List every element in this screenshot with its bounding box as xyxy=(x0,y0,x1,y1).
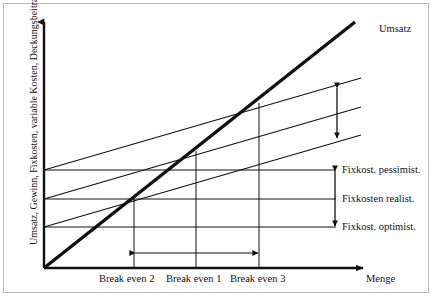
x-axis-title: Menge xyxy=(366,274,395,285)
y-axis-title: Umsatz, Gewinn, Fixkosten, variable Kost… xyxy=(29,29,39,245)
series-label-fixkosten-realist: Fixkosten realist. xyxy=(342,194,414,205)
fixed-cost-lines xyxy=(44,170,336,227)
chart-canvas xyxy=(0,0,435,304)
umsatz-revenue-line xyxy=(44,22,355,268)
series-label-fixkost-pessimist: Fixkost. pessimist. xyxy=(342,165,420,176)
x-tick-label-break-even-2: Break even 2 xyxy=(99,274,154,285)
break-even-chart-figure: Umsatz, Gewinn, Fixkosten, variable Kost… xyxy=(0,0,435,304)
total-cost-pessimistic-line xyxy=(44,78,361,170)
total-cost-lines xyxy=(44,78,361,227)
break-even-drop-lines xyxy=(134,103,259,268)
total-cost-realistic-line xyxy=(44,107,361,199)
total-cost-optimistic-line xyxy=(44,135,361,227)
series-label-fixkost-optimist: Fixkost. optimist. xyxy=(342,222,416,233)
x-tick-label-break-even-1: Break even 1 xyxy=(166,274,221,285)
x-tick-label-break-even-3: Break even 3 xyxy=(230,274,285,285)
series-label-umsatz: Umsatz xyxy=(379,24,411,35)
